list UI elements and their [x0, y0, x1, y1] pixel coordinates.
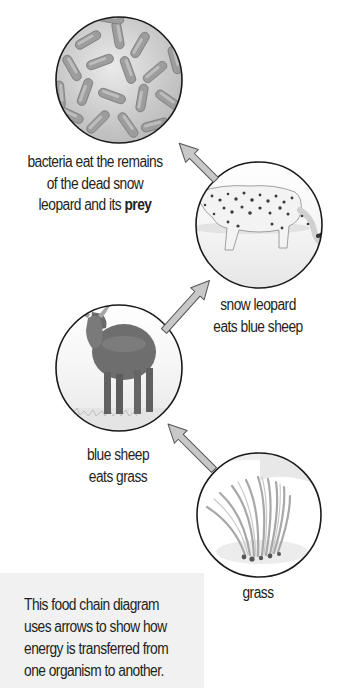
- food-chain-diagram: bacteria eat the remains of the dead sno…: [0, 0, 339, 688]
- bacteria-label-line: leopard and its prey: [9, 194, 181, 216]
- arrow-grass-to-sheep: [162, 418, 221, 477]
- bacteria-label-line: bacteria eat the remains: [9, 151, 181, 173]
- bacteria-label-text: leopard and its: [39, 196, 125, 213]
- blue-sheep-label-line: blue sheep: [66, 444, 169, 466]
- caption-line: uses arrows to show how: [24, 616, 168, 638]
- blue-sheep-label: blue sheep eats grass: [66, 444, 169, 487]
- bacteria-label: bacteria eat the remains of the dead sno…: [9, 151, 181, 216]
- blue-sheep-label-line: eats grass: [66, 466, 169, 488]
- snow-leopard-label: snow leopard eats blue sheep: [206, 294, 309, 337]
- caption-line: This food chain diagram: [24, 594, 168, 616]
- snow-leopard-label-line: snow leopard: [206, 294, 309, 316]
- grass-label-line: grass: [215, 582, 301, 604]
- bacteria-icon: [54, 11, 183, 143]
- grass-icon: [197, 450, 330, 577]
- caption-line: one organism to another.: [24, 660, 168, 682]
- caption-line: energy is transferred from: [24, 638, 168, 660]
- caption-text: This food chain diagram uses arrows to s…: [24, 594, 168, 682]
- bacteria-label-line: of the dead snow: [9, 173, 181, 195]
- grass-label: grass: [215, 582, 301, 604]
- snow-leopard-label-line: eats blue sheep: [206, 316, 309, 338]
- prey-bold-term: prey: [124, 196, 151, 213]
